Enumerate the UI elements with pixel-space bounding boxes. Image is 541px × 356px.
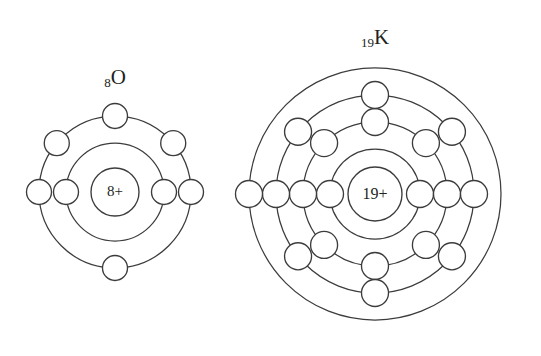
atom-potassium-shell-2-electron-6	[412, 130, 439, 157]
atom-diagram-canvas: 8+8O19+19K	[0, 0, 541, 356]
atom-potassium-shell-2-electron-5	[311, 130, 338, 157]
atom-oxygen-shell-2-electron-6	[161, 131, 186, 156]
atom-potassium-shell-1-electron-2	[407, 181, 434, 208]
atom-potassium-shell-3-electron-5	[285, 118, 312, 145]
atom-oxygen-nucleus-label: 8+	[107, 183, 123, 199]
atom-potassium-shell-2-electron-1	[290, 181, 317, 208]
atom-oxygen-shell-2-electron-3	[103, 104, 128, 129]
atom-oxygen-shell-1-electron-2	[152, 180, 177, 205]
atom-potassium-shell-2-electron-7	[311, 231, 338, 258]
atom-potassium-atomic-number: 19	[361, 35, 374, 50]
atom-potassium-shell-2-electron-2	[434, 181, 461, 208]
bohr-diagram-svg: 8+8O19+19K	[0, 0, 541, 356]
atom-oxygen-shell-2-electron-5	[44, 131, 69, 156]
atom-potassium-nucleus-label: 19+	[362, 185, 387, 202]
atom-oxygen-shell-2-electron-4	[103, 256, 128, 281]
atom-oxygen-shell-2-electron-2	[179, 180, 204, 205]
atom-potassium-symbol-label: 19K	[361, 25, 389, 50]
atom-potassium-element-symbol: K	[374, 25, 389, 49]
atom-potassium-shell-1-electron-1	[317, 181, 344, 208]
atom-potassium-shell-2-electron-8	[412, 231, 439, 258]
atom-potassium: 19+19K	[236, 25, 502, 320]
atom-potassium-shell-3-electron-3	[362, 82, 389, 109]
atom-potassium-shell-2-electron-4	[362, 253, 389, 280]
atom-oxygen: 8+8O	[27, 65, 204, 281]
atom-potassium-shell-3-electron-1	[263, 181, 290, 208]
atom-potassium-shell-3-electron-7	[285, 243, 312, 270]
atom-oxygen-element-symbol: O	[111, 65, 126, 89]
atom-potassium-shell-3-electron-4	[362, 280, 389, 307]
atom-potassium-shell-4-electron-1	[236, 181, 263, 208]
atom-oxygen-shell-1-electron-1	[54, 180, 79, 205]
atom-potassium-shell-3-electron-6	[438, 118, 465, 145]
atom-oxygen-shell-2-electron-1	[27, 180, 52, 205]
atom-potassium-shell-3-electron-2	[461, 181, 488, 208]
atom-potassium-shell-3-electron-8	[438, 243, 465, 270]
atom-oxygen-symbol-label: 8O	[104, 65, 126, 90]
atom-potassium-shell-2-electron-3	[362, 109, 389, 136]
